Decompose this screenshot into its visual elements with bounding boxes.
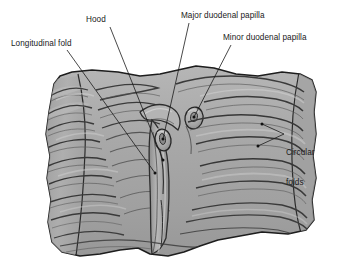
endpoint-longitudinal-fold [154,172,157,175]
label-circular-folds-line1: Circular [286,148,315,158]
label-longitudinal-fold: Longitudinal fold [11,39,72,49]
label-circular-folds-line2: folds [286,178,315,188]
endpoint-minor-papilla [193,116,196,119]
endpoint-major-papilla [162,138,165,141]
endpoint-hood [162,159,165,162]
duodenal-wall [46,66,318,272]
endpoint-circular-folds-upper [261,123,264,126]
label-major-duodenal-papilla: Major duodenal papilla [181,11,265,21]
endpoint-circular-folds-lower [257,145,260,148]
label-minor-duodenal-papilla: Minor duodenal papilla [223,33,307,43]
label-hood: Hood [86,15,106,25]
label-circular-folds: Circular folds [286,128,315,208]
duodenum-anatomy-figure: Longitudinal fold Hood Major duodenal pa… [0,0,340,274]
